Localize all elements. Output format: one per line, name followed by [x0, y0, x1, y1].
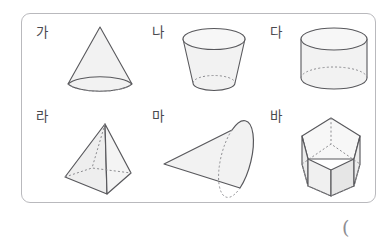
- cone-frustum-icon: [179, 25, 249, 97]
- figure-cell-1[interactable]: 가: [22, 14, 142, 106]
- square-pyramid-icon: [60, 120, 140, 200]
- figure-cell-2[interactable]: 나: [142, 14, 260, 106]
- figure-label-na: 나: [152, 26, 164, 40]
- figure-cell-3[interactable]: 다: [260, 14, 377, 106]
- figure-label-ra: 라: [36, 110, 48, 124]
- shapes-panel: 가 나: [21, 13, 376, 203]
- answer-parenthesis: (: [342, 218, 349, 237]
- cone-upright-icon: [62, 22, 138, 100]
- cone-sideways-icon: [162, 124, 252, 196]
- figure-label-da: 다: [270, 26, 282, 40]
- figure-cell-4[interactable]: 라: [22, 106, 142, 204]
- figure-label-ma: 마: [152, 110, 164, 124]
- cylinder-icon: [297, 26, 371, 96]
- worksheet-root: 가 나: [0, 0, 392, 249]
- figure-cell-5[interactable]: 마: [142, 106, 260, 204]
- pentagonal-prism-icon: [296, 114, 368, 200]
- figure-label-ba: 바: [270, 110, 282, 124]
- figure-label-ga: 가: [36, 26, 48, 40]
- figure-cell-6[interactable]: 바: [260, 106, 377, 204]
